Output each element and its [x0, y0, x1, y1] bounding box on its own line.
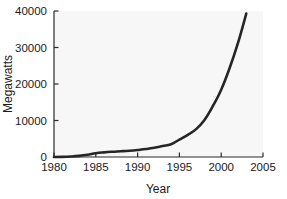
x-tick-label: 2005 [250, 161, 276, 173]
plot-area-background [54, 11, 263, 157]
line-chart: 010000200003000040000 198019851990199520… [0, 0, 287, 199]
y-tick-label: 40000 [15, 5, 47, 17]
y-axis-title: Megawatts [1, 55, 15, 113]
x-tick-label: 1985 [83, 161, 109, 173]
chart-figure: 010000200003000040000 198019851990199520… [0, 0, 287, 199]
x-tick-label: 1980 [41, 161, 67, 173]
x-tick-label: 1990 [125, 161, 151, 173]
x-tick-label: 2000 [208, 161, 234, 173]
y-tick-label: 10000 [15, 115, 47, 127]
y-tick-label: 20000 [15, 78, 47, 90]
y-tick-label: 30000 [15, 42, 47, 54]
x-axis-title: Year [146, 182, 170, 196]
x-tick-label: 1995 [167, 161, 193, 173]
